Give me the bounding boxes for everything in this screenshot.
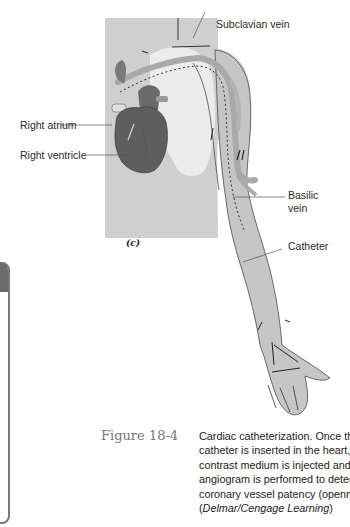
caption-line: coronary vessel patency (openness). — [199, 487, 349, 501]
credit-text: Delmar/Cengage Learning — [203, 502, 330, 514]
label-right-atrium: Right atrium — [20, 119, 77, 131]
panel-tag: (c) — [126, 238, 140, 248]
figure-word: Figure — [101, 428, 145, 443]
caption-line: angiogram is performed to detect — [199, 472, 349, 486]
label-subclavian-vein: Subclavian vein — [216, 18, 290, 30]
credit-paren-close: ) — [329, 502, 333, 514]
figure-number: Figure 18-4 — [101, 428, 178, 443]
caption-text: Cardiac catheterization. Once the cathet… — [199, 429, 349, 515]
cardiac-catheterization-figure: Subclavian vein Right atrium Right ventr… — [0, 0, 350, 527]
caption-line: catheter is inserted in the heart, a — [199, 443, 349, 457]
label-catheter: Catheter — [288, 240, 328, 252]
label-right-ventricle: Right ventricle — [20, 149, 87, 161]
caption-line: Cardiac catheterization. Once the — [199, 429, 349, 443]
caption-credit: (Delmar/Cengage Learning) — [199, 501, 349, 515]
figure-number-value: 18-4 — [149, 428, 178, 443]
label-basilic-vein-2: vein — [288, 202, 307, 214]
label-basilic-vein-1: Basilic — [288, 189, 318, 201]
caption-line: contrast medium is injected and an — [199, 458, 349, 472]
